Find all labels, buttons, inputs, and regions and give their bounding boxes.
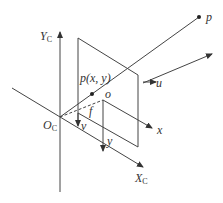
image-x-axis (103, 100, 152, 128)
label-principal-point: o (105, 87, 111, 101)
label-image-point: p(x, y) (79, 71, 111, 85)
label-pixel-v-axis: v (81, 119, 87, 133)
projection-ray (60, 17, 199, 117)
camera-model-diagram: YC OC XC p p(x, y) o f x y u v (0, 0, 223, 203)
label-image-x-axis: x (156, 123, 163, 137)
world-point-marker (197, 15, 201, 19)
label-pixel-u-axis: u (156, 76, 162, 90)
label-camera-origin: OC (43, 118, 57, 133)
label-camera-x-axis: XC (134, 171, 148, 186)
label-world-point: p (205, 10, 212, 24)
label-camera-y-axis: YC (40, 29, 52, 44)
label-image-y-axis: y (106, 134, 113, 148)
pixel-u-axis (143, 54, 212, 83)
diagram-svg: YC OC XC p p(x, y) o f x y u v (0, 0, 223, 203)
label-focal-length: f (89, 104, 94, 118)
image-point-marker (90, 92, 94, 96)
